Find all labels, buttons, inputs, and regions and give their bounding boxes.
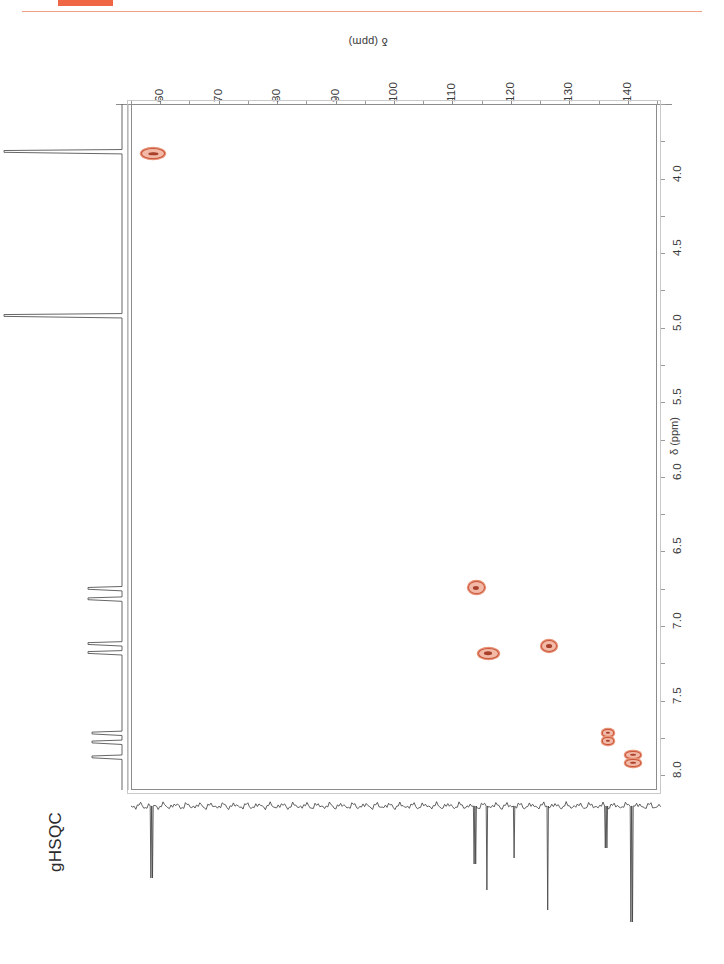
proton-tick-label: 5.0 [671, 314, 683, 331]
carbon-tick-label: 140 [621, 82, 633, 102]
proton-tick-label: 4.5 [671, 239, 683, 256]
carbon-axis-title: δ (ppm) [328, 36, 408, 48]
proton-tick-label: 4.0 [671, 165, 683, 182]
proton-projection-svg [0, 104, 131, 790]
cross-peak[interactable] [602, 729, 614, 737]
proton-axis-title: δ (ppm) [668, 417, 680, 455]
carbon-tick-label: 100 [387, 82, 399, 102]
cross-peak[interactable] [541, 640, 557, 652]
cross-peak[interactable] [625, 751, 641, 759]
cross-peak-core [630, 754, 636, 756]
cross-peak-core [546, 644, 552, 648]
cross-peak[interactable] [602, 737, 614, 745]
proton-tick-label: 6.5 [671, 538, 683, 555]
cross-peak[interactable] [468, 581, 485, 594]
proton-projection-trace [0, 104, 131, 790]
carbon-projection-svg [131, 792, 661, 922]
proton-tick-label: 7.5 [671, 687, 683, 704]
carbon-tick-label: 130 [562, 82, 574, 102]
cross-peak-core [630, 762, 636, 764]
cross-peak-core [605, 732, 609, 734]
cross-peak-core [149, 152, 158, 155]
carbon-projection-trace [131, 792, 661, 922]
cross-peak-core [473, 586, 479, 590]
orange-accent-tab [58, 0, 113, 6]
cross-peak[interactable] [478, 648, 499, 659]
proton-tick-label: 8.0 [671, 761, 683, 778]
spectrum-plot-area[interactable] [131, 104, 657, 790]
cross-peak[interactable] [625, 759, 641, 767]
proton-tick-label: 7.0 [671, 612, 683, 629]
proton-tick-label: 6.0 [671, 463, 683, 480]
cross-peak-core [484, 652, 492, 655]
experiment-title: gHSQC [46, 812, 66, 872]
cross-peak[interactable] [141, 148, 165, 159]
orange-horizontal-rule [22, 11, 702, 12]
carbon-tick-label: 120 [504, 82, 516, 102]
proton-tick-label: 5.5 [671, 388, 683, 405]
cross-peak-core [605, 740, 609, 742]
